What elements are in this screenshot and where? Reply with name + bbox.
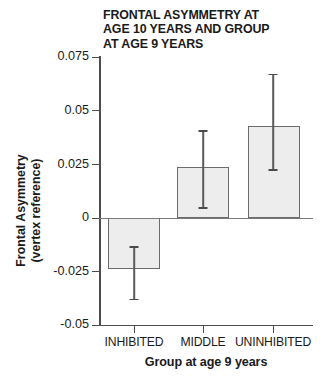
y-tick-mark	[92, 164, 99, 165]
error-bar-cap-lower-middle	[199, 207, 208, 209]
x-tick-label-uninhibited: UNINHIBITED	[235, 336, 311, 349]
error-bar-middle	[202, 131, 204, 208]
y-tick-label-neg005: -0.05	[60, 318, 89, 331]
error-bar-cap-lower-inhibited	[130, 299, 139, 301]
x-tick-mark	[134, 326, 135, 333]
x-axis-title: Group at age 9 years	[99, 355, 313, 369]
y-tick-label-005: 0.05	[64, 104, 89, 117]
x-tick-mark	[273, 326, 274, 333]
y-tick-mark	[92, 271, 99, 272]
chart-title: FRONTAL ASYMMETRY AT AGE 10 YEARS AND GR…	[103, 8, 318, 51]
error-bar-cap-upper-uninhibited	[269, 74, 278, 76]
y-tick-label-0075: 0.075	[57, 50, 89, 63]
bar-uninhibited[interactable]	[248, 126, 300, 218]
x-tick-label-middle: MIDDLE	[180, 336, 225, 349]
y-tick-mark	[92, 325, 99, 326]
x-axis-line	[99, 325, 313, 327]
y-axis-title: Frontal Asymmetry (vertex reference)	[14, 131, 43, 291]
x-tick-label-inhibited: INHIBITED	[105, 336, 164, 349]
y-tick-label-0025: 0.025	[57, 158, 89, 171]
error-bar-cap-lower-uninhibited	[269, 169, 278, 171]
error-bar-inhibited	[133, 247, 135, 300]
y-tick-mark	[92, 110, 99, 111]
y-tick-mark	[92, 57, 99, 58]
chart-figure: FRONTAL ASYMMETRY AT AGE 10 YEARS AND GR…	[0, 0, 329, 383]
y-tick-mark	[92, 218, 99, 219]
y-tick-label-neg0025: -0.025	[53, 265, 89, 278]
error-bar-uninhibited	[272, 74, 274, 170]
error-bar-cap-upper-inhibited	[130, 246, 139, 248]
zero-reference-line	[99, 218, 313, 219]
y-tick-label-0: 0	[82, 211, 89, 224]
error-bar-cap-upper-middle	[199, 130, 208, 132]
y-axis-line	[99, 56, 101, 326]
x-tick-mark	[203, 326, 204, 333]
